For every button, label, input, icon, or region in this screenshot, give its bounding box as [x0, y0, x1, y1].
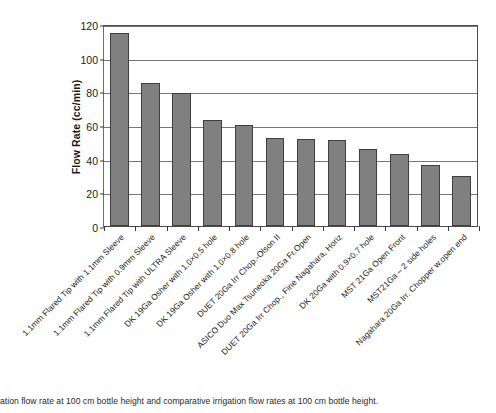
- bar[interactable]: [359, 149, 378, 226]
- x-tick-mark: [479, 226, 480, 231]
- x-tick-mark: [354, 226, 355, 231]
- bar[interactable]: [421, 165, 440, 226]
- x-tick-mark: [323, 226, 324, 231]
- x-tick-mark: [292, 226, 293, 231]
- bar[interactable]: [203, 120, 222, 226]
- x-tick-mark: [167, 226, 168, 231]
- bar[interactable]: [110, 33, 129, 226]
- bar[interactable]: [328, 140, 347, 226]
- bar-slot: [104, 26, 135, 226]
- y-axis-title: Flow Rate (cc/min): [70, 26, 86, 228]
- x-axis-labels: 1.1mm Flared Tip with 1.1mm Sleeve1.1mm …: [103, 232, 478, 382]
- x-tick-mark: [135, 226, 136, 231]
- bar[interactable]: [452, 176, 471, 227]
- x-tick-mark: [198, 226, 199, 231]
- x-tick-mark: [104, 226, 105, 231]
- y-tick-label: 60: [86, 121, 98, 133]
- bar-slot: [166, 26, 197, 226]
- x-tick-mark: [385, 226, 386, 231]
- bar[interactable]: [235, 125, 254, 226]
- plot-area: 020406080100120 Flow Rate (cc/min): [103, 25, 478, 227]
- bar-slot: [353, 26, 384, 226]
- bar[interactable]: [266, 138, 285, 226]
- bar[interactable]: [390, 154, 409, 226]
- y-tick-label: 80: [86, 87, 98, 99]
- y-tick-label: 0: [92, 222, 98, 234]
- bars-layer: [104, 26, 477, 226]
- bar[interactable]: [297, 139, 316, 226]
- x-tick-mark: [229, 226, 230, 231]
- bar-slot: [446, 26, 477, 226]
- bar-slot: [135, 26, 166, 226]
- x-tick-mark: [417, 226, 418, 231]
- y-tick-label: 20: [86, 188, 98, 200]
- bar[interactable]: [141, 83, 160, 226]
- bar-slot: [259, 26, 290, 226]
- bar[interactable]: [172, 93, 191, 226]
- x-tick-mark: [260, 226, 261, 231]
- figure-caption: ation flow rate at 100 cm bottle height …: [0, 396, 496, 406]
- figure-container: 020406080100120 Flow Rate (cc/min) 1.1mm…: [0, 0, 496, 413]
- bar-slot: [228, 26, 259, 226]
- y-tick-label: 40: [86, 155, 98, 167]
- x-tick-mark: [448, 226, 449, 231]
- bar-slot: [322, 26, 353, 226]
- bar-slot: [197, 26, 228, 226]
- bar-slot: [290, 26, 321, 226]
- bar-slot: [384, 26, 415, 226]
- bar-slot: [415, 26, 446, 226]
